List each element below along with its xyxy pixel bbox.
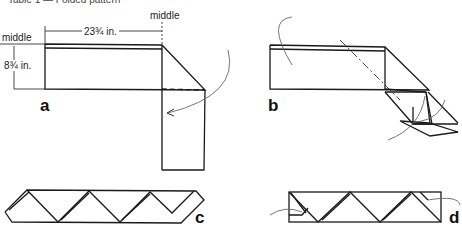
height-dimension: 8¾ in. [4,60,31,71]
panel-b-drawing [270,40,458,136]
diagram-graphics [0,0,462,227]
middle-label-left: middle [2,32,31,43]
panel-label-d: d [449,208,459,227]
middle-label-top: middle [150,10,179,21]
panel-c-drawing [5,190,204,223]
width-dimension: 23¾ in. [82,26,119,37]
folding-diagram: Table 1 — Folded pattern [0,0,462,227]
panel-label-c: c [195,208,204,227]
panel-label-a: a [40,96,49,116]
panel-a-drawing [0,22,205,170]
panel-d-drawing [289,192,441,222]
panel-label-b: b [268,96,278,116]
